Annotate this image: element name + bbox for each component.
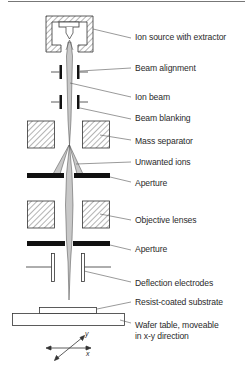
ion-beam-lithography-diagram <box>0 0 247 375</box>
resist-coated-substrate <box>40 308 97 314</box>
axis-label-y: y <box>85 329 88 339</box>
label-aperture-1: Aperture <box>135 178 167 188</box>
label-ion-source: Ion source with extractor <box>135 32 226 42</box>
label-aperture-2: Aperture <box>135 244 167 254</box>
label-unwanted-ions: Unwanted ions <box>135 157 191 167</box>
ion-beam-upper <box>67 42 73 145</box>
axis-label-x: x <box>86 349 89 359</box>
label-objective-lenses: Objective lenses <box>135 215 196 225</box>
label-deflection-electrodes: Deflection electrodes <box>135 278 213 288</box>
ion-beam-lower <box>66 145 74 300</box>
label-wafer-table-2: in x-y direction <box>135 331 189 341</box>
xy-axes-icon <box>46 336 91 361</box>
label-beam-blanking: Beam blanking <box>135 113 191 123</box>
label-substrate: Resist-coated substrate <box>135 297 223 307</box>
label-mass-separator: Mass separator <box>135 136 193 146</box>
label-ion-beam: Ion beam <box>135 92 170 102</box>
wafer-table <box>13 314 125 326</box>
label-wafer-table-1: Wafer table, moveable <box>135 320 219 330</box>
label-beam-alignment: Beam alignment <box>135 63 196 73</box>
